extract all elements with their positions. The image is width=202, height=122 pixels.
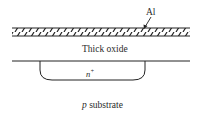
al-label: Al [146,8,156,18]
thick-oxide-label: Thick oxide [82,45,128,55]
p-substrate-label: p substrate [82,101,123,111]
n-plus-label: n+ [86,68,94,79]
plus-superscript: + [90,68,94,74]
al-pointer-arrow [144,17,152,29]
al-metal-layer [12,28,190,36]
substrate-label: substrate [87,100,123,110]
